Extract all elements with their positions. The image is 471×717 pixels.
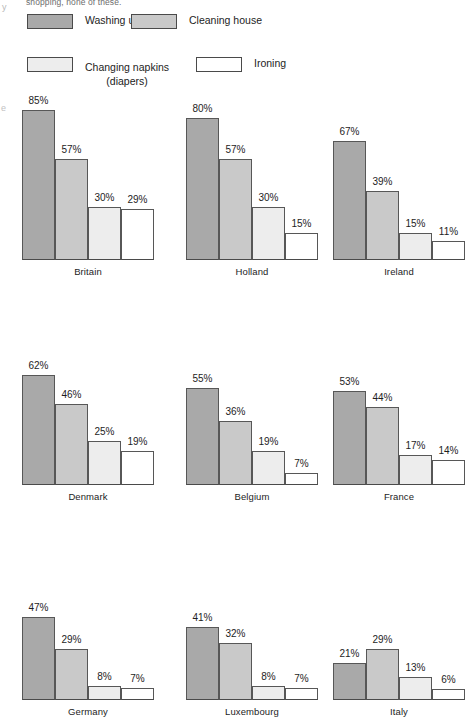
bar [121,209,154,260]
bar-value-label: 6% [441,674,455,686]
plot-area: 21%29%13%6% [333,540,465,700]
bar-value-label: 32% [225,628,245,640]
bar [186,388,219,485]
bar-group-1: 29% [366,634,399,700]
bar [55,159,88,260]
bar [366,407,399,485]
bar-group-2: 30% [88,192,121,260]
legend-row-1: Washing up Cleaning house [0,14,471,40]
bar [22,375,55,485]
bar-group-2: 15% [399,218,432,260]
chart-panel-luxembourg: 41%32%8%7%Luxembourg [186,540,318,717]
bar-value-label: 7% [294,458,308,470]
bar-value-label: 39% [372,176,392,188]
bar [88,207,121,260]
panel-country-label: France [333,491,465,502]
bar-value-label: 15% [405,218,425,230]
bar-value-label: 62% [28,360,48,372]
cutoff-header-text: shopping, none of these. [26,0,122,7]
bar-value-label: 47% [28,602,48,614]
panel-country-label: Luxembourg [186,706,318,717]
legend-swatch-washing-up [27,14,73,29]
panel-country-label: Holland [186,266,318,277]
plot-area: 41%32%8%7% [186,540,318,700]
bar [399,455,432,485]
bar-value-label: 13% [405,662,425,674]
bar-group-1: 46% [55,389,88,485]
bar-value-label: 25% [94,426,114,438]
bar-group-2: 8% [88,671,121,700]
legend-swatch-cleaning-house [131,14,177,29]
bar-group-0: 47% [22,602,55,700]
bar-group-2: 25% [88,426,121,485]
bar-value-label: 15% [291,218,311,230]
bar-value-label: 46% [61,389,81,401]
bar [88,686,121,700]
legend-row-2: Changing napkins (diapers) Ironing [0,40,471,66]
bar [219,159,252,260]
legend-item-changing-napkins: Changing napkins (diapers) [27,57,169,88]
bar [22,110,55,260]
plot-area: 53%44%17%14% [333,325,465,485]
chart-panel-france: 53%44%17%14%France [333,325,465,502]
bar-group-1: 29% [55,634,88,700]
chart-panel-holland: 80%57%30%15%Holland [186,100,318,277]
bar [399,677,432,700]
bar-group-2: 30% [252,192,285,260]
chart-panel-belgium: 55%36%19%7%Belgium [186,325,318,502]
bar-value-label: 30% [258,192,278,204]
legend-item-cleaning-house: Cleaning house [131,14,262,29]
bar [252,686,285,700]
bar-value-label: 29% [61,634,81,646]
panel-country-label: Ireland [333,266,465,277]
chart-panel-britain: 85%57%30%29%Britain [22,100,154,277]
bar-group-0: 53% [333,376,366,485]
panel-country-label: Belgium [186,491,318,502]
bar [366,649,399,700]
bar-group-0: 80% [186,103,219,260]
bar [252,207,285,260]
bar [432,460,465,485]
bar-group-2: 19% [252,436,285,485]
bar-group-0: 41% [186,612,219,700]
bar-group-3: 7% [285,673,318,700]
bar-group-2: 13% [399,662,432,700]
bar-value-label: 85% [28,95,48,107]
bar-value-label: 41% [192,612,212,624]
scan-artifact-left: e [1,103,6,113]
bar-value-label: 57% [225,144,245,156]
bar-group-1: 57% [219,144,252,260]
panel-country-label: Germany [22,706,154,717]
bar [333,141,366,260]
bar [121,451,154,485]
bar-value-label: 36% [225,406,245,418]
bar-value-label: 29% [372,634,392,646]
bar [55,404,88,485]
bar [186,627,219,700]
bar [88,441,121,485]
plot-area: 80%57%30%15% [186,100,318,260]
plot-area: 62%46%25%19% [22,325,154,485]
bar [399,233,432,260]
panel-country-label: Italy [333,706,465,717]
plot-area: 55%36%19%7% [186,325,318,485]
legend-sublabel-diapers: (diapers) [85,75,169,88]
bar-value-label: 57% [61,144,81,156]
legend-item-ironing: Ironing [196,57,286,72]
legend-label-ironing: Ironing [254,57,286,70]
bar [121,688,154,700]
bar-value-label: 30% [94,192,114,204]
bar [219,643,252,700]
bar-value-label: 19% [127,436,147,448]
bar-value-label: 8% [261,671,275,683]
bar-group-3: 15% [285,218,318,260]
bar-group-0: 67% [333,126,366,260]
panel-country-label: Britain [22,266,154,277]
bar-value-label: 55% [192,373,212,385]
bar-value-label: 14% [438,445,458,457]
bar-value-label: 7% [294,673,308,685]
scan-artifact-top-left: y [2,2,9,11]
legend-item-washing-up: Washing up [27,14,140,29]
bar-group-3: 11% [432,226,465,260]
bar-group-2: 17% [399,440,432,485]
